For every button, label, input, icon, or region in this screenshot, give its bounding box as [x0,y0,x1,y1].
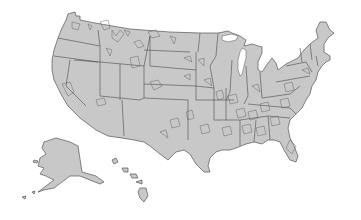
contiguous-us [52,12,334,172]
hawaii [112,158,148,202]
alaska [38,138,104,192]
alaska-island [32,191,35,194]
alaska-island [33,160,38,163]
us-map [0,0,361,220]
alaska-island [22,196,26,199]
